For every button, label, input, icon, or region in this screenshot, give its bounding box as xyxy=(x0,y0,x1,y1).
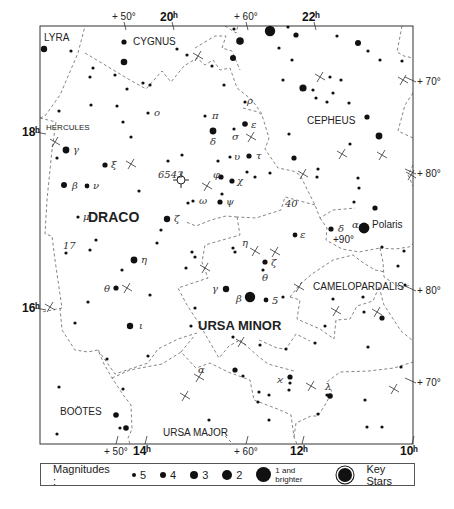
constellation-label: URSA MINOR xyxy=(198,318,282,333)
boundary-line xyxy=(379,287,412,340)
special-label: Polaris xyxy=(372,219,403,230)
star-designation: ζ xyxy=(174,213,180,224)
cross-marker-icon xyxy=(270,247,280,257)
star-designation: α xyxy=(198,364,205,375)
star xyxy=(246,153,251,158)
star xyxy=(396,264,399,267)
star-designation: π xyxy=(211,110,219,121)
star-designation: β xyxy=(235,293,242,304)
boundary-line xyxy=(240,340,294,371)
star xyxy=(262,259,267,264)
star xyxy=(185,53,188,56)
star xyxy=(141,81,144,84)
star xyxy=(361,295,364,298)
cross-marker-icon xyxy=(50,137,60,147)
star xyxy=(159,228,162,231)
star xyxy=(146,354,149,357)
star-designation: η xyxy=(141,254,147,265)
cross-marker-icon xyxy=(193,51,203,61)
coordinate-label: + 50° xyxy=(112,11,136,22)
constellation-label: DRACO xyxy=(88,209,139,225)
star xyxy=(191,199,194,202)
star xyxy=(328,75,331,78)
coordinate-label: 14ʰ xyxy=(133,444,151,458)
star-designation: χ xyxy=(236,175,244,186)
special-label: +90° xyxy=(333,234,354,245)
star xyxy=(89,103,92,106)
star-designation: θ xyxy=(104,283,110,294)
magnitude-dot-icon xyxy=(190,471,198,479)
star xyxy=(265,26,275,36)
star xyxy=(316,167,319,170)
star xyxy=(127,323,133,329)
legend-item: 5 xyxy=(132,469,146,481)
star xyxy=(121,39,126,44)
star xyxy=(113,412,119,418)
magnitude-dot-icon xyxy=(256,467,271,482)
cross-marker-icon xyxy=(315,72,325,82)
star xyxy=(210,64,213,67)
cross-marker-icon xyxy=(122,283,132,293)
star xyxy=(284,347,287,350)
cross-marker-icon xyxy=(294,282,304,292)
star-designation: 5 xyxy=(272,295,278,306)
star xyxy=(267,418,270,421)
coordinate-label: + 70° xyxy=(417,377,441,388)
cross-marker-icon xyxy=(306,381,316,391)
star xyxy=(210,128,217,135)
star xyxy=(61,182,67,188)
star xyxy=(316,412,319,415)
star xyxy=(355,40,361,46)
star-designation: δ xyxy=(210,136,216,147)
star xyxy=(315,175,318,178)
star xyxy=(121,387,124,390)
star xyxy=(184,266,187,269)
star xyxy=(228,155,231,158)
star xyxy=(94,238,97,241)
boundary-line xyxy=(186,216,237,226)
key-stars-label: Key Stars xyxy=(366,463,414,487)
star xyxy=(256,400,259,403)
star-designation: ε xyxy=(300,229,305,240)
star-designation: η xyxy=(242,237,248,248)
star xyxy=(231,335,234,338)
star xyxy=(131,257,138,264)
star xyxy=(55,156,58,159)
star xyxy=(399,365,402,368)
coordinate-label: + 80° xyxy=(417,168,441,179)
coordinate-label: + 60° xyxy=(234,11,258,22)
star xyxy=(102,162,107,167)
legend-label: 5 xyxy=(140,469,146,481)
star xyxy=(366,49,369,52)
star xyxy=(180,153,183,156)
cross-marker-icon xyxy=(331,306,341,316)
star xyxy=(88,75,91,78)
cross-marker-icon xyxy=(202,181,212,191)
cross-marker-icon xyxy=(398,75,408,85)
boundary-line xyxy=(85,53,262,114)
star xyxy=(372,205,377,210)
coordinate-label: 18ʰ xyxy=(22,125,40,139)
star-designation: τ xyxy=(256,150,262,161)
star xyxy=(325,100,328,103)
star-designation: ψ xyxy=(226,196,234,207)
star xyxy=(175,47,178,50)
star xyxy=(257,390,260,393)
star xyxy=(41,46,47,52)
constellation-label: CEPHEUS xyxy=(307,115,356,126)
cross-marker-icon xyxy=(389,384,399,394)
star xyxy=(91,66,94,69)
star xyxy=(236,37,244,45)
star xyxy=(253,175,256,178)
boundary-line xyxy=(98,333,197,374)
star-designation: ξ xyxy=(111,159,117,170)
star xyxy=(314,96,317,99)
star-designation: ε xyxy=(251,119,256,130)
star-designation: 17 xyxy=(63,240,76,251)
constellation-label: URSA MAJOR xyxy=(163,427,228,438)
star xyxy=(55,432,58,435)
star xyxy=(230,55,236,61)
star xyxy=(400,59,403,62)
star-designation: θ xyxy=(262,272,268,283)
stars xyxy=(41,25,407,435)
